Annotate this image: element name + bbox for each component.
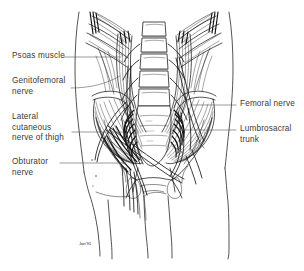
label-genitofemoral-nerve: Genitofemoral nerve — [12, 76, 66, 97]
artist-signature: Jan'91 — [79, 241, 91, 245]
label-obturator-nerve: Obturator nerve — [12, 157, 48, 178]
label-psoas-muscle: Psoas muscle — [12, 51, 65, 62]
label-femoral-nerve: Femoral nerve — [240, 99, 295, 110]
label-lumbrosacral-trunk: Lumbrosacral trunk — [240, 124, 292, 145]
lumbar-vertebrae — [138, 22, 170, 106]
anatomical-illustration-figure: .ink { fill:none; stroke:#1a1a1a; stroke… — [0, 0, 304, 271]
sacrum — [136, 106, 171, 166]
label-lateral-cutaneous-nerve-of-thigh: Lateral cutaneous nerve of thigh — [12, 112, 64, 144]
